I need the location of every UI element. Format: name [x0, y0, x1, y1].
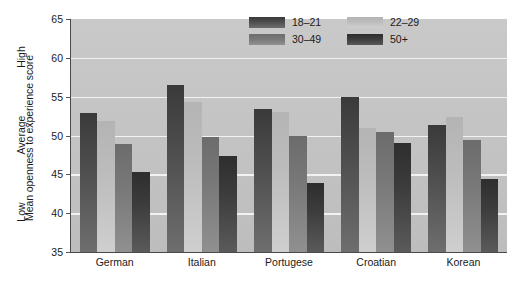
bar [428, 125, 446, 252]
bar [97, 121, 115, 252]
legend-label: 18–21 [292, 16, 321, 28]
legend-swatch-icon [249, 34, 285, 45]
bar [80, 113, 98, 252]
x-tick-label: Korean [420, 256, 507, 268]
bar [115, 144, 133, 252]
y-axis-qualitative-label-text: Low [15, 203, 27, 222]
bar [307, 183, 325, 252]
y-axis-qualitative-label-text: High [15, 46, 27, 68]
legend-item: 18–21 [249, 16, 333, 28]
bar [202, 137, 220, 252]
bar [132, 172, 150, 252]
y-tick-label: 35 [33, 247, 63, 258]
x-tick-label: German [71, 256, 158, 268]
legend-item: 50+ [347, 33, 431, 45]
legend-label: 50+ [390, 33, 408, 45]
y-tick-label: 40 [33, 208, 63, 219]
chart-legend: 18–2122–2930–4950+ [249, 16, 431, 45]
bar [184, 102, 202, 252]
y-tick-label: 50 [33, 131, 63, 142]
plot-area [71, 19, 507, 252]
gridline [71, 97, 507, 99]
bar [359, 128, 377, 252]
legend-label: 30–49 [292, 33, 321, 45]
y-tick-label: 65 [33, 14, 63, 25]
legend-swatch-icon [347, 34, 383, 45]
bar [289, 136, 307, 252]
x-tick-label: Italian [158, 256, 245, 268]
bar [167, 85, 185, 252]
gridline [71, 58, 507, 60]
figure-caption [0, 276, 507, 288]
bar [272, 112, 290, 252]
bar [446, 117, 464, 252]
bar [219, 156, 237, 252]
y-axis-qualitative-label-text: Average [15, 115, 27, 154]
legend-item: 22–29 [347, 16, 431, 28]
y-tick-label: 60 [33, 53, 63, 64]
y-tick-label: 55 [33, 92, 63, 103]
legend-label: 22–29 [390, 16, 419, 28]
bar [394, 143, 412, 252]
bar [254, 109, 272, 252]
legend-swatch-icon [347, 17, 383, 28]
bar [463, 140, 481, 252]
x-tick-label: Portugese [245, 256, 332, 268]
y-tick-label: 45 [33, 169, 63, 180]
bar [341, 97, 359, 252]
legend-swatch-icon [249, 17, 285, 28]
x-axis-line [70, 252, 507, 253]
chart-figure: Mean openness to experience score HighAv… [0, 0, 507, 288]
x-tick-label: Croatian [333, 256, 420, 268]
bar [481, 179, 499, 252]
bar [376, 132, 394, 252]
legend-item: 30–49 [249, 33, 333, 45]
